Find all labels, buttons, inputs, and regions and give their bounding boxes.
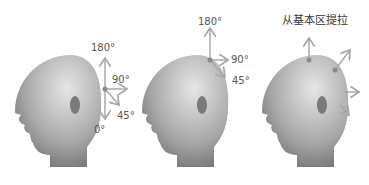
- label-45: 45°: [232, 75, 250, 86]
- head-middle: 180° 90° 45°: [142, 16, 250, 167]
- figure-title: 从基本区提拉: [282, 13, 348, 27]
- label-90: 90°: [231, 54, 249, 65]
- head-left: 180° 90° 45° 0°: [15, 42, 135, 167]
- label-180: 180°: [198, 16, 222, 27]
- diagram-canvas: 180° 90° 45° 0° 180° 90° 45° 从基本区提拉: [0, 0, 369, 185]
- head-right: 从基本区提拉: [262, 13, 359, 167]
- label-180: 180°: [91, 42, 115, 53]
- label-90: 90°: [112, 74, 130, 85]
- label-0: 0°: [94, 124, 105, 135]
- label-45: 45°: [117, 110, 135, 121]
